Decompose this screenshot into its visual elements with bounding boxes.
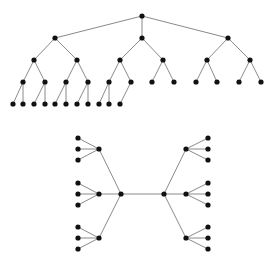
tree-edge (23, 60, 34, 82)
tree-edge (34, 38, 55, 60)
tree-node (205, 235, 210, 240)
tree-node (205, 224, 210, 229)
tree-edge (99, 149, 121, 194)
tree-edge (186, 149, 208, 160)
tree-node (75, 191, 80, 196)
tree-node (96, 146, 101, 151)
tree-edge (78, 194, 99, 205)
tree-node (75, 135, 80, 140)
tree-edge (78, 183, 99, 194)
tree-node (96, 191, 101, 196)
top-tree-nodes (10, 13, 263, 106)
tree-node (236, 79, 241, 84)
tree-edge (186, 138, 208, 149)
tree-node (75, 235, 80, 240)
tree-node (205, 180, 210, 185)
tree-node (10, 101, 15, 106)
tree-node (183, 191, 188, 196)
tree-node (74, 57, 79, 62)
tree-edge (207, 38, 228, 60)
tree-node (161, 191, 166, 196)
top-rooted-tree (10, 13, 263, 106)
tree-node (96, 101, 101, 106)
tree-edge (120, 82, 131, 104)
tree-edge (186, 183, 208, 194)
tree-edge (152, 60, 163, 82)
tree-node (85, 101, 90, 106)
tree-node (183, 235, 188, 240)
tree-edge (164, 149, 186, 194)
tree-edge (34, 82, 45, 104)
tree-edge (186, 227, 208, 238)
tree-edge (239, 60, 250, 82)
tree-node (52, 35, 57, 40)
tree-node (42, 79, 47, 84)
tree-node (75, 180, 80, 185)
tree-edge (163, 60, 174, 82)
tree-node (183, 146, 188, 151)
tree-node (31, 101, 36, 106)
tree-edge (120, 60, 131, 82)
tree-node (74, 101, 79, 106)
tree-edge (228, 38, 250, 60)
tree-edge (99, 82, 109, 104)
tree-node (85, 79, 90, 84)
tree-node (20, 79, 25, 84)
tree-node (106, 79, 111, 84)
tree-edge (13, 82, 23, 104)
tree-edge (78, 227, 99, 238)
tree-edge (109, 60, 120, 82)
top-tree-edges (13, 16, 261, 104)
tree-diagram-canvas (0, 0, 271, 263)
bottom-symmetric-tree (75, 135, 210, 251)
tree-node (75, 146, 80, 151)
tree-node (117, 101, 122, 106)
tree-node (171, 79, 176, 84)
tree-node (75, 224, 80, 229)
tree-edge (77, 60, 88, 82)
tree-node (139, 13, 144, 18)
tree-node (42, 101, 47, 106)
tree-edge (250, 60, 261, 82)
tree-edge (34, 60, 45, 82)
tree-node (63, 79, 68, 84)
tree-edge (55, 38, 77, 60)
tree-node (75, 157, 80, 162)
tree-edge (55, 16, 142, 38)
tree-node (205, 191, 210, 196)
tree-node (193, 79, 198, 84)
tree-edge (186, 238, 208, 249)
tree-edge (164, 194, 186, 238)
tree-node (75, 202, 80, 207)
tree-node (20, 101, 25, 106)
tree-node (247, 57, 252, 62)
tree-node (118, 191, 123, 196)
tree-edge (77, 82, 88, 104)
tree-edge (142, 38, 163, 60)
tree-edge (55, 82, 66, 104)
tree-node (205, 146, 210, 151)
tree-node (128, 79, 133, 84)
tree-edge (78, 138, 99, 149)
tree-node (214, 79, 219, 84)
tree-node (149, 79, 154, 84)
tree-node (52, 101, 57, 106)
tree-edge (99, 194, 121, 238)
tree-edge (78, 238, 99, 249)
tree-node (204, 57, 209, 62)
tree-edge (78, 149, 99, 160)
tree-node (205, 135, 210, 140)
tree-node (31, 57, 36, 62)
tree-edge (66, 60, 77, 82)
tree-node (117, 57, 122, 62)
tree-node (205, 202, 210, 207)
tree-node (96, 235, 101, 240)
tree-node (139, 35, 144, 40)
tree-node (106, 101, 111, 106)
tree-node (63, 101, 68, 106)
tree-node (75, 246, 80, 251)
tree-node (225, 35, 230, 40)
tree-node (205, 157, 210, 162)
tree-node (258, 79, 263, 84)
tree-edge (207, 60, 217, 82)
